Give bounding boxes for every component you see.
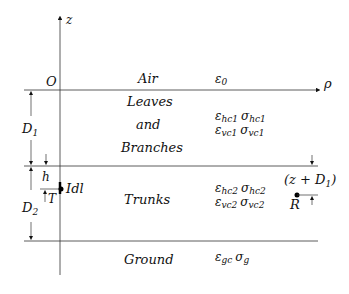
svg-text:D2: D2 bbox=[21, 200, 38, 217]
ground-params: εgcσg bbox=[215, 250, 249, 265]
and-label: and bbox=[136, 117, 160, 132]
receiver: R (z + D1) bbox=[284, 155, 336, 212]
t-dimension: T bbox=[45, 192, 57, 206]
svg-text:ε0: ε0 bbox=[215, 72, 227, 87]
rho-axis-label: ρ bbox=[323, 76, 332, 91]
h-dimension: h bbox=[40, 154, 60, 189]
branches-label: Branches bbox=[120, 140, 183, 155]
z-axis-label: z bbox=[65, 13, 73, 27]
svg-text:Idl: Idl bbox=[65, 181, 84, 196]
svg-text:εgcσg: εgcσg bbox=[215, 250, 249, 265]
trunks-params: εhc2σhc2 εvc2σvc2 bbox=[215, 181, 266, 210]
svg-text:εvc1σvc1: εvc1σvc1 bbox=[215, 123, 264, 138]
d2-dimension: D2 bbox=[21, 169, 38, 238]
leaves-label: Leaves bbox=[126, 94, 173, 109]
ground-layer-label: Ground bbox=[124, 252, 174, 267]
svg-text:εhc1σhc1: εhc1σhc1 bbox=[215, 109, 266, 124]
layered-forest-medium-diagram: z ρ O Air Leaves and Branches Trunks Gro… bbox=[0, 0, 349, 294]
svg-text:εhc2σhc2: εhc2σhc2 bbox=[215, 181, 266, 196]
air-layer-label: Air bbox=[137, 71, 159, 86]
svg-text:R: R bbox=[289, 197, 300, 212]
air-params: ε0 bbox=[215, 72, 227, 87]
svg-text:h: h bbox=[42, 170, 50, 184]
source-dipole: Idl bbox=[59, 181, 84, 196]
svg-text:T: T bbox=[48, 192, 57, 206]
svg-text:(z + D1): (z + D1) bbox=[284, 172, 336, 189]
svg-text:D1: D1 bbox=[21, 121, 38, 138]
origin-label: O bbox=[46, 74, 57, 89]
trunks-layer-label: Trunks bbox=[124, 192, 171, 207]
svg-text:εvc2σvc2: εvc2σvc2 bbox=[215, 195, 265, 210]
leaves-params: εhc1σhc1 εvc1σvc1 bbox=[215, 109, 266, 138]
d1-dimension: D1 bbox=[21, 93, 38, 163]
